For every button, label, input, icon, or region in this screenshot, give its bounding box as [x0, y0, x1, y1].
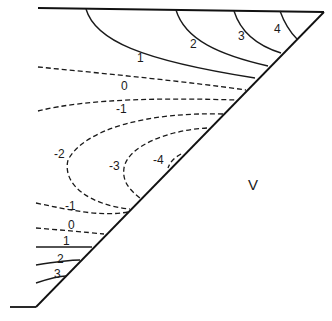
label-upper-minus1: -1: [116, 102, 127, 116]
label-lower-minus1: -1: [65, 199, 76, 213]
label-minus3: -3: [109, 159, 120, 173]
contour-diagram: 1 2 3 4 0 -1 -2 -3 -4 -1 0 1 2 3 V: [0, 0, 332, 321]
label-lower-0: 0: [68, 218, 75, 232]
label-upper-0: 0: [121, 79, 128, 93]
top-boundary-line: [38, 8, 324, 12]
label-lower-2: 2: [57, 252, 64, 266]
label-upper-2: 2: [190, 37, 197, 51]
label-upper-3: 3: [238, 29, 245, 43]
contour-upper-4: [280, 11, 297, 39]
label-minus4: -4: [153, 153, 164, 167]
region-label-v: V: [248, 176, 258, 193]
label-upper-4: 4: [274, 22, 281, 36]
label-upper-1: 1: [137, 51, 144, 65]
diagonal-boundary-line: [36, 12, 324, 307]
label-lower-3: 3: [54, 267, 61, 281]
label-minus2: -2: [54, 147, 65, 161]
label-lower-1: 1: [63, 234, 70, 248]
contour-upper-1: [86, 9, 255, 78]
contour-lower-minus1: [36, 203, 128, 214]
contour-minus3: [124, 128, 207, 198]
contour-upper-minus1: [38, 99, 236, 111]
